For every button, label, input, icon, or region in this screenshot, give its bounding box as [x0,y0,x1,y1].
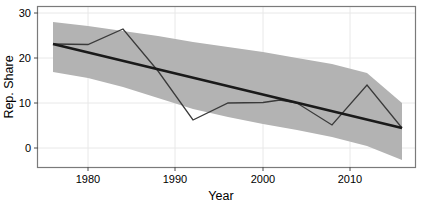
y-axis-title: Rep. Share [2,55,16,118]
x-axis-title: Year [208,189,233,203]
plot-area [38,7,416,168]
ytick-label-0: 0 [25,142,31,154]
chart-container: 30 20 10 0 Rep. Share 1980 1990 2000 201… [0,0,425,205]
rep-share-trend-chart: 30 20 10 0 Rep. Share 1980 1990 2000 201… [0,0,425,205]
ytick-label-30: 30 [19,7,31,19]
xtick-label-2010: 2010 [338,173,362,185]
xtick-label-1990: 1990 [163,173,187,185]
xtick-label-1980: 1980 [76,173,100,185]
ytick-label-20: 20 [19,52,31,64]
xtick-label-2000: 2000 [251,173,275,185]
ytick-label-10: 10 [19,97,31,109]
